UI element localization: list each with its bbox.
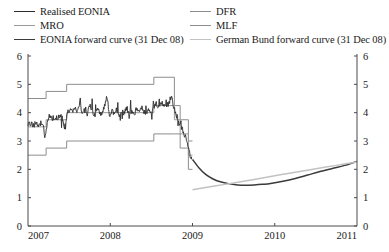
series-eonia-forward-curve-31-dec-08 — [193, 159, 358, 185]
legend-item-mlf: MLF — [190, 18, 386, 32]
chart-figure: Realised EONIA MRO EONIA forward curve (… — [0, 0, 389, 252]
series-dfr — [28, 134, 193, 169]
y-axis-label-right: 2 — [363, 164, 368, 175]
y-axis-label-right: 5 — [363, 79, 368, 90]
legend-column-right: DFR MLF German Bund forward curve (31 De… — [190, 4, 386, 46]
chart-svg: 0011223344556620072008200920102011 — [0, 48, 389, 252]
legend-label-german-bund-forward-curve: German Bund forward curve (31 Dec 08) — [216, 34, 386, 45]
legend-label-eonia-forward-curve: EONIA forward curve (31 Dec 08) — [40, 34, 184, 45]
series-german-bund-forward-curve-31-dec-08 — [193, 162, 358, 190]
x-axis-label: 2009 — [182, 230, 203, 241]
chart-legend: Realised EONIA MRO EONIA forward curve (… — [0, 4, 389, 50]
y-axis-label-left: 1 — [17, 192, 22, 203]
legend-label-realised-eonia: Realised EONIA — [40, 6, 110, 17]
y-axis-label-left: 2 — [17, 164, 22, 175]
axis-layer — [28, 54, 357, 226]
legend-item-realised-eonia: Realised EONIA — [14, 4, 184, 18]
legend-swatch-mro — [14, 25, 35, 26]
y-axis-label-left: 3 — [17, 136, 22, 147]
legend-swatch-mlf — [190, 25, 211, 26]
legend-label-mro: MRO — [40, 20, 64, 31]
legend-item-dfr: DFR — [190, 4, 386, 18]
legend-swatch-dfr — [190, 11, 211, 12]
y-axis-label-right: 0 — [363, 221, 368, 232]
legend-item-mro: MRO — [14, 18, 184, 32]
series-layer — [28, 77, 357, 189]
legend-item-german-bund-forward-curve: German Bund forward curve (31 Dec 08) — [190, 32, 386, 46]
x-axis-label: 2008 — [100, 230, 121, 241]
chart-plot-area: 0011223344556620072008200920102011 — [0, 48, 389, 252]
y-axis-label-right: 6 — [363, 51, 368, 62]
y-axis-label-right: 3 — [363, 136, 368, 147]
y-axis-label-right: 4 — [363, 107, 369, 118]
legend-label-dfr: DFR — [216, 6, 236, 17]
x-axis-label: 2010 — [264, 230, 285, 241]
axis-frame — [28, 54, 357, 226]
legend-swatch-german-bund-forward-curve — [190, 39, 211, 40]
legend-swatch-realised-eonia — [14, 11, 35, 12]
x-axis-label: 2007 — [28, 230, 49, 241]
legend-column-left: Realised EONIA MRO EONIA forward curve (… — [14, 4, 184, 46]
y-axis-label-left: 0 — [17, 221, 22, 232]
y-axis-label-left: 4 — [17, 107, 23, 118]
series-mlf — [28, 77, 193, 141]
x-axis-label: 2011 — [336, 230, 357, 241]
y-axis-label-right: 1 — [363, 192, 368, 203]
axis-label-layer: 0011223344556620072008200920102011 — [17, 51, 369, 241]
y-axis-label-left: 5 — [17, 79, 22, 90]
series-realised-eonia — [28, 96, 192, 159]
legend-label-mlf: MLF — [216, 20, 237, 31]
legend-item-eonia-forward-curve: EONIA forward curve (31 Dec 08) — [14, 32, 184, 46]
legend-swatch-eonia-forward-curve — [14, 39, 35, 40]
y-axis-label-left: 6 — [17, 51, 22, 62]
